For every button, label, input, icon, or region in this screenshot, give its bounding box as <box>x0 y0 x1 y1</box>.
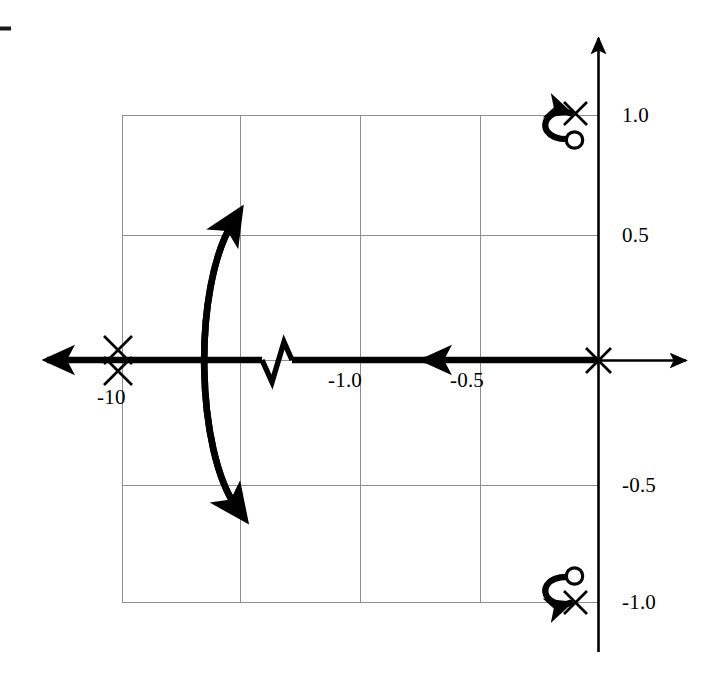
x-tick-label-neg-one: -1.0 <box>328 368 362 393</box>
locus-vertical-branch <box>204 222 237 508</box>
y-tick-label-neg-half: -0.5 <box>622 473 656 498</box>
y-tick-label-pos-one: 1.0 <box>622 103 649 128</box>
root-locus-figure: -1.0 -0.5 1.0 0.5 -0.5 -1.0 -10 <box>0 0 715 698</box>
zero-marker-lower <box>566 568 582 584</box>
zero-marker-upper <box>566 132 582 148</box>
locus-arc-lower <box>204 222 237 508</box>
root-locus-canvas <box>0 0 715 698</box>
y-tick-label-neg-one: -1.0 <box>622 590 656 615</box>
pole-annotation-minus-ten: -10 <box>97 385 126 410</box>
axis-scale-break <box>262 342 292 382</box>
x-tick-label-neg-half: -0.5 <box>450 368 484 393</box>
axis-lines <box>598 38 686 652</box>
y-tick-label-pos-half: 0.5 <box>622 223 649 248</box>
